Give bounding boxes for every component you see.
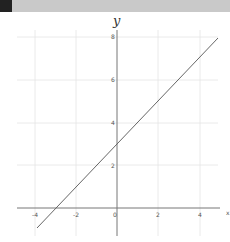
y-tick: 4 — [111, 119, 115, 126]
chart: y x -4 -2 0 2 4 2 4 6 8 — [0, 0, 230, 242]
series-line — [37, 38, 218, 228]
x-tick: 2 — [156, 211, 160, 218]
y-tick: 8 — [111, 33, 115, 40]
x-tick: 0 — [113, 211, 117, 218]
x-tick: 4 — [198, 211, 202, 218]
x-tick: -4 — [32, 211, 38, 218]
y-tick: 6 — [111, 76, 115, 83]
x-tick: -2 — [73, 211, 79, 218]
y-tick: 2 — [111, 162, 115, 169]
y-axis-label: y — [112, 13, 121, 28]
x-axis-label: x — [226, 209, 230, 216]
